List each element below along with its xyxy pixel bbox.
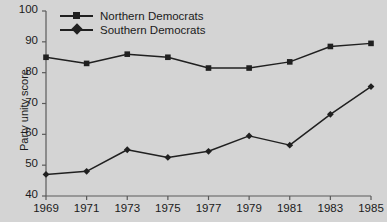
series-line-southern-democrats <box>46 87 371 175</box>
data-point-marker-square <box>246 65 252 71</box>
legend-item-northern-democrats: Northern Democrats <box>60 8 204 23</box>
legend-item-southern-democrats: Southern Democrats <box>60 22 205 37</box>
legend-marker-square-icon <box>60 10 93 22</box>
data-point-marker-square <box>287 59 293 65</box>
series-line-northern-democrats <box>46 43 371 68</box>
data-point-marker-diamond <box>205 148 212 155</box>
data-point-marker-square <box>84 61 90 67</box>
data-point-marker-square <box>368 41 374 47</box>
legend-marker-diamond-icon <box>60 24 93 36</box>
data-point-marker-square <box>328 44 334 50</box>
data-point-marker-square <box>165 54 171 60</box>
data-point-marker-diamond <box>124 146 131 153</box>
data-point-marker-square <box>206 65 212 71</box>
data-series <box>43 41 375 178</box>
data-point-marker-square <box>124 51 130 57</box>
data-point-marker-diamond <box>83 168 90 175</box>
legend-label-northern-democrats: Northern Democrats <box>100 10 204 22</box>
chart-legend: Northern Democrats Southern Democrats <box>60 8 250 44</box>
data-point-marker-diamond <box>246 132 253 139</box>
data-point-marker-diamond <box>164 154 171 161</box>
data-point-marker-square <box>43 54 49 60</box>
data-point-marker-diamond <box>43 171 50 178</box>
party-unity-line-chart: Party unity score 405060708090100 196919… <box>0 0 387 222</box>
legend-label-southern-democrats: Southern Democrats <box>100 24 205 36</box>
